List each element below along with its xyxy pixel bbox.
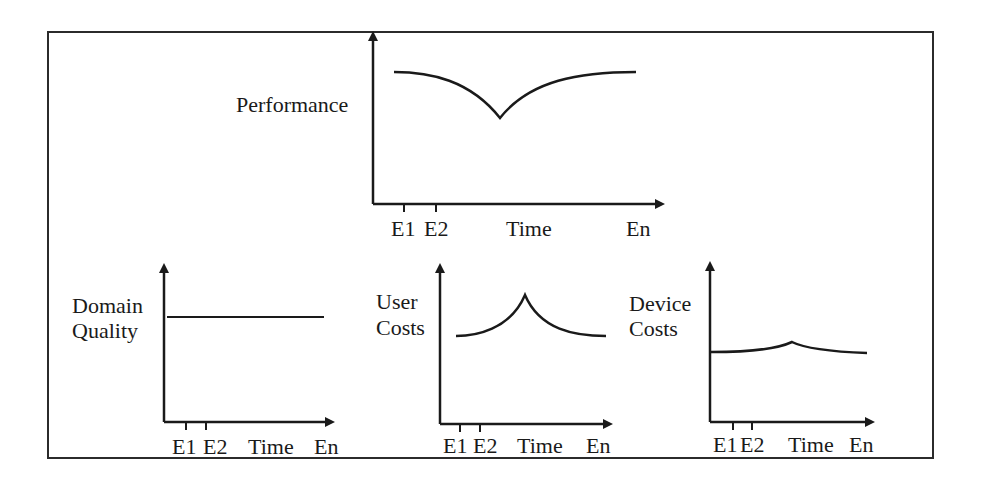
device-costs-y-label-line2: Costs	[629, 317, 678, 341]
performance-x-tick-time: Time	[506, 217, 552, 241]
domain-quality-x-tick-e1: E1	[172, 435, 196, 459]
domain-quality-y-label-line1: Domain	[72, 294, 143, 318]
performance-curve	[394, 72, 636, 118]
domain-quality-chart	[164, 268, 330, 430]
diagram-canvas	[0, 0, 982, 481]
performance-x-tick-e2: E2	[424, 217, 448, 241]
device-costs-chart	[710, 266, 870, 430]
domain-quality-x-tick-time: Time	[248, 435, 294, 459]
device-costs-curve	[711, 342, 867, 353]
performance-chart	[373, 36, 660, 212]
device-costs-x-tick-en: En	[849, 433, 873, 457]
performance-x-tick-en: En	[626, 217, 650, 241]
domain-quality-y-label-line2: Quality	[72, 319, 138, 343]
user-costs-x-tick-time: Time	[517, 434, 563, 458]
device-costs-y-label-line1: Device	[629, 292, 691, 316]
device-costs-x-tick-e2: E2	[740, 433, 764, 457]
user-costs-y-label-line1: User	[376, 290, 418, 314]
user-costs-x-tick-e1: E1	[443, 434, 467, 458]
user-costs-chart	[440, 268, 608, 432]
performance-x-tick-e1: E1	[391, 217, 415, 241]
performance-y-label: Performance	[236, 93, 348, 117]
user-costs-y-label-line2: Costs	[376, 316, 425, 340]
device-costs-x-tick-e1: E1	[713, 433, 737, 457]
user-costs-x-tick-en: En	[586, 434, 610, 458]
user-costs-x-tick-e2: E2	[473, 434, 497, 458]
domain-quality-x-tick-e2: E2	[203, 435, 227, 459]
domain-quality-x-tick-en: En	[314, 435, 338, 459]
user-costs-curve	[456, 295, 606, 336]
device-costs-x-tick-time: Time	[788, 433, 834, 457]
